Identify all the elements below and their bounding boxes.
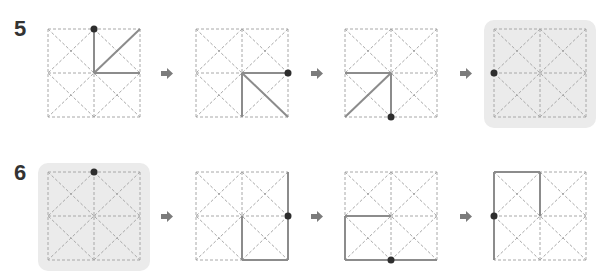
start-dot-icon: [491, 70, 498, 77]
grid-row6-step1[interactable]: [48, 172, 140, 260]
guide-line: [48, 172, 94, 216]
stroke-line: [345, 73, 391, 117]
guide-line: [48, 29, 94, 73]
start-dot-icon: [91, 169, 98, 176]
guide-line: [494, 29, 540, 73]
start-dot-icon: [491, 213, 498, 220]
grid-row6-step4: [494, 172, 586, 260]
grid-row5-step3: [345, 29, 437, 117]
right-arrow-icon: [460, 68, 472, 79]
guide-line: [540, 29, 586, 73]
grid-row5-step2: [196, 29, 288, 117]
start-dot-icon: [388, 114, 395, 121]
guide-line: [196, 172, 242, 216]
guide-line: [345, 172, 391, 216]
guide-line: [242, 29, 288, 73]
guide-line: [345, 29, 391, 73]
grid-row6-step2: [196, 172, 288, 260]
right-arrow-icon: [311, 68, 323, 79]
guide-line: [494, 172, 540, 216]
row-5-label: 5: [14, 18, 26, 40]
right-arrow-icon: [161, 68, 173, 79]
stroke-line: [242, 73, 288, 117]
right-arrow-icon: [311, 211, 323, 222]
start-dot-icon: [388, 257, 395, 264]
row-6-label: 6: [14, 162, 26, 184]
stroke-line: [94, 29, 140, 73]
guide-line: [196, 29, 242, 73]
start-dot-icon: [285, 70, 292, 77]
grid-row5-step4[interactable]: [494, 29, 586, 117]
right-arrow-icon: [161, 211, 173, 222]
guide-line: [391, 29, 437, 73]
grid-row6-step3: [345, 172, 437, 260]
guide-line: [391, 172, 437, 216]
right-arrow-icon: [460, 211, 472, 222]
guide-line: [540, 172, 586, 216]
guide-line: [242, 172, 288, 216]
guide-line: [94, 172, 140, 216]
grid-row5-step1: [48, 29, 140, 117]
start-dot-icon: [285, 213, 292, 220]
start-dot-icon: [91, 26, 98, 33]
